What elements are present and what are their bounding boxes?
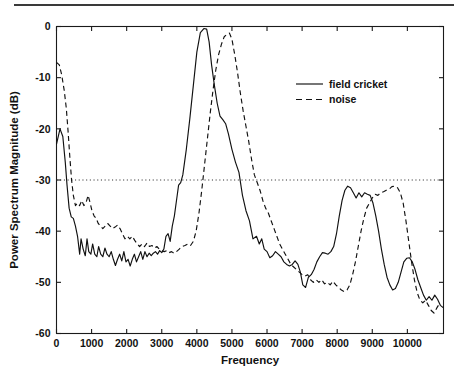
x-tick-label: 7000 bbox=[290, 337, 314, 349]
legend-label-field-cricket: field cricket bbox=[329, 78, 388, 90]
x-tick-label: 10000 bbox=[393, 337, 422, 349]
x-tick-label: 3000 bbox=[150, 337, 174, 349]
x-tick-label: 6000 bbox=[255, 337, 279, 349]
figure-container: 0100020003000400050006000700080009000100… bbox=[0, 0, 465, 382]
x-tick-label: 0 bbox=[54, 337, 60, 349]
y-tick-label: 0 bbox=[45, 20, 51, 32]
x-tick-label: 9000 bbox=[361, 337, 385, 349]
legend-label-noise: noise bbox=[329, 93, 357, 105]
series-field-cricket bbox=[57, 29, 444, 308]
x-tick-label: 1000 bbox=[80, 337, 104, 349]
y-tick-label: -50 bbox=[35, 276, 50, 288]
x-tick-label: 5000 bbox=[220, 337, 244, 349]
y-tick-label: -40 bbox=[35, 225, 50, 237]
y-tick-label: -30 bbox=[35, 174, 50, 186]
x-tick-label: 2000 bbox=[115, 337, 139, 349]
x-axis-title: Frequency bbox=[221, 354, 280, 366]
y-tick-label: -60 bbox=[35, 327, 50, 339]
series-noise bbox=[57, 33, 440, 313]
y-axis-title: Power Spectrum Magnitude (dB) bbox=[8, 91, 20, 269]
power-spectrum-chart: 0100020003000400050006000700080009000100… bbox=[0, 0, 465, 382]
x-tick-label: 4000 bbox=[185, 337, 209, 349]
y-tick-label: -10 bbox=[35, 71, 50, 83]
x-tick-label: 8000 bbox=[326, 337, 350, 349]
y-tick-label: -20 bbox=[35, 123, 50, 135]
